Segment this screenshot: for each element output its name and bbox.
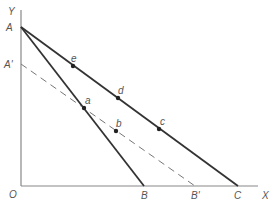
point-a — [82, 106, 86, 110]
label-B: B — [141, 190, 148, 201]
label-c: c — [160, 116, 165, 127]
label-B-prime: B' — [191, 190, 201, 201]
budget-line-diagram: Y A A' O B B' C X a b c d e — [0, 0, 278, 214]
label-A-prime: A' — [3, 59, 14, 70]
y-axis-label: Y — [8, 6, 16, 17]
origin-label: O — [9, 189, 17, 200]
point-c — [157, 127, 161, 131]
label-e: e — [71, 53, 77, 64]
line-AC — [21, 27, 238, 186]
label-C: C — [234, 190, 242, 201]
label-a: a — [85, 95, 91, 106]
label-d: d — [118, 85, 124, 96]
label-b: b — [116, 118, 122, 129]
line-A-prime-B-prime — [21, 64, 195, 186]
point-e — [71, 64, 75, 68]
point-b — [114, 129, 118, 133]
label-A: A — [5, 22, 13, 33]
x-axis-label: X — [261, 190, 269, 201]
point-d — [116, 96, 120, 100]
